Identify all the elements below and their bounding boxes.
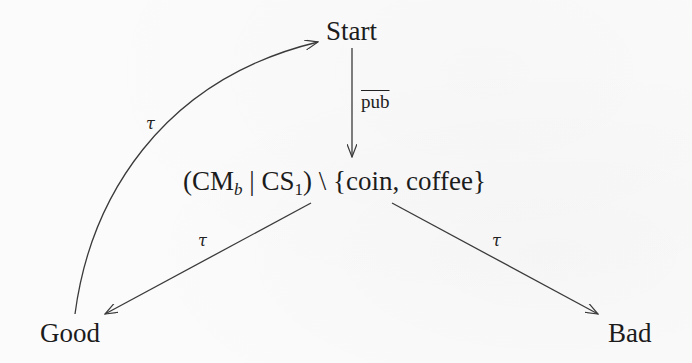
node-good: Good	[40, 320, 100, 347]
process-cs: CS	[261, 166, 294, 196]
restriction-set: {coin, coffee}	[333, 166, 486, 196]
process-cs-subscript: 1	[294, 180, 303, 199]
edge-label-tau-left: τ	[198, 233, 207, 249]
parallel-bar: |	[243, 166, 262, 196]
edge-label-tau-right: τ	[492, 233, 501, 249]
edge-label-pub: pub	[361, 92, 390, 111]
node-bad: Bad	[608, 320, 652, 347]
node-center-process: (CMb | CS1) \ {coin, coffee}	[183, 168, 486, 195]
process-cm-subscript: b	[234, 180, 243, 199]
open-paren: (	[183, 166, 192, 196]
close-paren: )	[303, 166, 312, 196]
process-cm: CM	[192, 166, 234, 196]
diagram-canvas: Start (CMb | CS1) \ {coin, coffee} Good …	[0, 0, 692, 363]
node-start: Start	[326, 18, 377, 45]
restriction-operator: \	[312, 166, 333, 196]
edge-label-tau-curve: τ	[146, 116, 155, 132]
edge-center-to-bad	[392, 203, 598, 314]
edge-center-to-good	[105, 203, 311, 314]
